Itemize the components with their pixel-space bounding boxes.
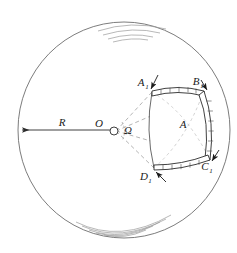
corner-label-d1: D 1 [139,170,152,185]
corner-label-b1-letter: B [193,75,200,87]
bottom-shading-arcs [76,215,171,237]
radius-label: R [58,116,66,128]
corner-label-a1: A 1 [137,76,149,91]
figure-root: R O Ω A A 1 B 1 C 1 D 1 [0,0,237,253]
corner-label-b1-subscript: 1 [200,82,204,90]
corner-label-d1-letter: D [139,170,148,182]
corner-label-c1-subscript: 1 [209,167,213,175]
patch-area-label: A [179,118,187,130]
corner-label-c1-letter: C [201,160,209,172]
corner-label-b1: B 1 [193,75,204,90]
top-shading-arcs [98,25,166,42]
vertex-dot [110,127,118,135]
corner-label-d1-subscript: 1 [148,177,152,185]
corner-label-a1-subscript: 1 [145,83,149,91]
vertex-label: O [95,117,103,129]
corner-label-c1: C 1 [201,160,212,175]
corner-label-a1-letter: A [137,76,145,88]
solid-angle-label: Ω [124,124,132,136]
sphere-solid-angle-diagram: R O Ω A A 1 B 1 C 1 D 1 [0,0,237,253]
